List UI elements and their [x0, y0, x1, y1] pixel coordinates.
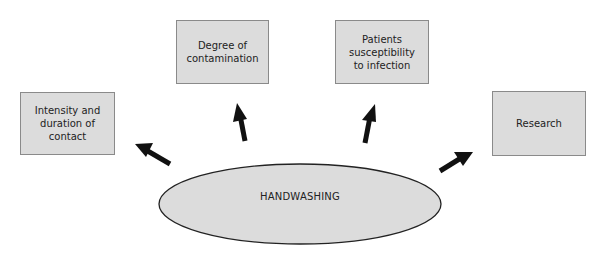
arrow-to-research — [440, 152, 473, 171]
arrow-to-patients — [362, 104, 376, 143]
box-intensity-duration-contact: Intensity and duration of contact — [20, 92, 115, 155]
box-patients-susceptibility: Patients susceptibility to infection — [335, 20, 429, 84]
box-degree-contamination: Degree of contamination — [176, 20, 269, 84]
handwashing-label: HANDWASHING — [160, 191, 440, 202]
box-label: Intensity and duration of contact — [35, 104, 101, 143]
box-label: Patients susceptibility to infection — [349, 33, 415, 72]
arrow-to-intensity — [135, 143, 170, 164]
box-label: Degree of contamination — [186, 39, 258, 65]
box-research: Research — [492, 91, 586, 156]
arrow-to-degree — [233, 103, 247, 141]
box-label: Research — [516, 117, 562, 130]
handwashing-ellipse — [159, 164, 441, 244]
